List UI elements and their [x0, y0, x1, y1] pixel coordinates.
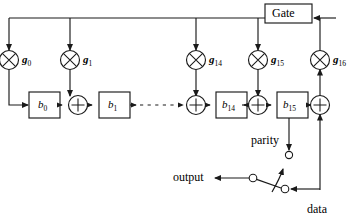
lfsr-diagram-canvas: Gate g0 g1 g14 g15 g16 b0 b1 b14 b15 par… — [0, 0, 351, 221]
switch-blade[interactable] — [257, 179, 281, 188]
data-label: data — [307, 203, 327, 215]
switch-pivot-terminal[interactable] — [249, 174, 257, 182]
tap-g1-label: g1 — [83, 54, 92, 68]
output-label: output — [173, 171, 204, 183]
gate-box-label: Gate — [272, 7, 295, 19]
tap-g14-label: g14 — [209, 54, 222, 68]
tap-g0-output — [9, 70, 28, 106]
tap-g0-label: g0 — [22, 54, 31, 68]
lfsr-schematic — [0, 0, 351, 221]
register-b0-label: b0 — [38, 99, 47, 113]
parity-label: parity — [251, 134, 279, 146]
tap-g16-label: g16 — [333, 54, 346, 68]
register-b14-label: b14 — [222, 99, 235, 113]
register-b1-label: b1 — [108, 99, 117, 113]
register-b15-label: b15 — [283, 99, 296, 113]
parity-terminal[interactable] — [285, 151, 292, 158]
tap-g15-label: g15 — [271, 54, 284, 68]
switch-data-terminal[interactable] — [281, 185, 289, 193]
